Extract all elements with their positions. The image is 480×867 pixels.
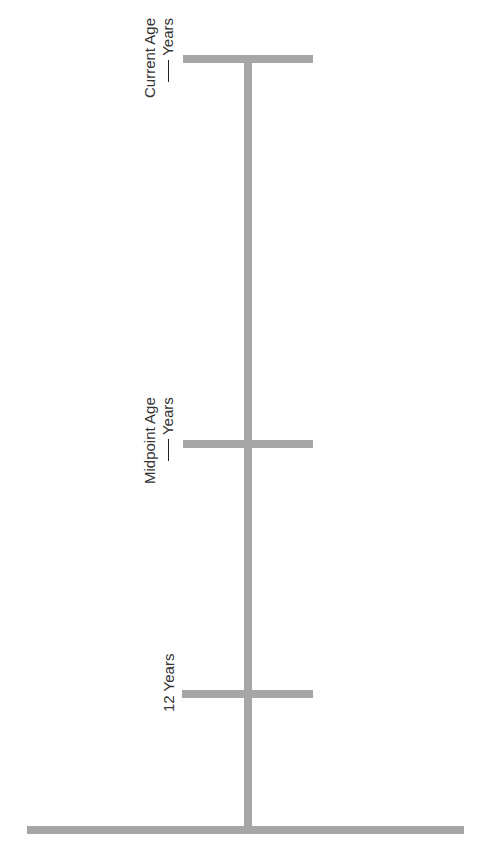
twelve-years-title: 12 Years (160, 654, 178, 712)
midpoint-age-title: Midpoint Age (141, 397, 159, 484)
current-age-marker-bar (183, 55, 313, 63)
current-age-title: Current Age (141, 18, 159, 98)
twelve-years-marker-bar (182, 690, 313, 698)
twelve-years-label: 12 Years (160, 654, 178, 712)
current-age-years: Years (159, 18, 177, 98)
fill-in-blank (168, 60, 169, 82)
fill-in-blank (168, 439, 169, 461)
midpoint-age-marker-bar (183, 440, 313, 448)
timeline-base-bar (27, 826, 464, 834)
midpoint-age-years: Years (159, 397, 177, 484)
midpoint-age-label: Midpoint Age Years (141, 397, 177, 484)
current-age-label: Current Age Years (141, 18, 177, 98)
